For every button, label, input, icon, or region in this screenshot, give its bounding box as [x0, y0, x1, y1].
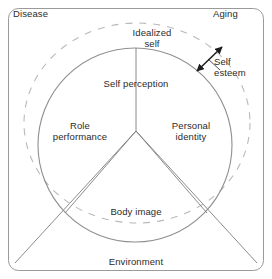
- divider-line-down-right: [136, 131, 207, 213]
- body-image-label: Body image: [0, 206, 272, 217]
- diagonal-line-bottom-right: [136, 131, 257, 263]
- frame-label-environment: Environment: [0, 256, 272, 267]
- divider-line-down-left: [65, 131, 136, 213]
- self-esteem-label: Self esteem: [214, 56, 266, 78]
- diagonal-line-bottom-left: [15, 131, 136, 263]
- frame-label-aging: Aging: [213, 8, 238, 19]
- idealized-self-label: Idealized self: [110, 27, 194, 49]
- self-perception-label: Self perception: [0, 78, 272, 89]
- self-concept-diagram: Disease Aging Environment Idealized self…: [0, 0, 272, 279]
- role-performance-label: Role performance: [35, 120, 125, 142]
- frame-label-disease: Disease: [13, 8, 48, 19]
- personal-identity-label: Personal identity: [148, 120, 234, 142]
